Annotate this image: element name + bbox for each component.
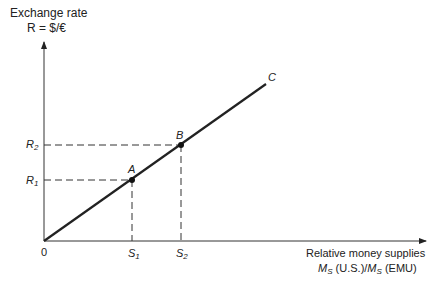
r1-letter: R <box>26 174 34 186</box>
x-axis-title-2: MS (U.S.)/MS (EMU) <box>318 262 417 276</box>
s1-label: S1 <box>128 247 140 261</box>
point-b <box>178 142 184 148</box>
s2-label: S2 <box>176 247 188 261</box>
s1-sub: 1 <box>135 252 139 261</box>
curve-c <box>44 84 266 241</box>
r1-label: R1 <box>26 174 38 188</box>
ms-emu-letter: M <box>367 262 376 274</box>
origin-label: 0 <box>41 246 47 258</box>
r2-sub: 2 <box>34 143 38 152</box>
point-b-label: B <box>176 129 183 141</box>
diagram-canvas <box>0 0 438 285</box>
point-a <box>129 177 135 183</box>
s2-sub: 2 <box>183 252 187 261</box>
y-axis-title-1: Exchange rate <box>10 6 87 20</box>
ms-us-letter: M <box>318 262 327 274</box>
curve-label: C <box>268 71 276 83</box>
y-axis-title-2: R = $/€ <box>27 21 66 35</box>
r2-letter: R <box>26 138 34 150</box>
us-text: (U.S.)/ <box>333 262 368 274</box>
emu-text: (EMU) <box>382 262 417 274</box>
x-axis-title-1: Relative money supplies <box>306 247 425 259</box>
r2-label: R2 <box>26 138 38 152</box>
r1-sub: 1 <box>34 179 38 188</box>
point-a-label: A <box>128 163 135 175</box>
